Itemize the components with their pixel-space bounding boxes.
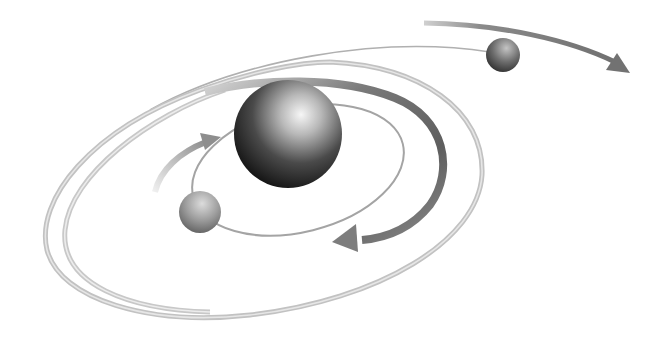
- diagram-svg: [0, 0, 660, 347]
- outer-satellite: [486, 38, 520, 72]
- central-sphere: [234, 80, 342, 188]
- orbital-diagram: [0, 0, 660, 347]
- far-right-arrow: [606, 53, 630, 73]
- inner-satellite: [179, 191, 221, 233]
- middle-counterclockwise-arrow: [332, 224, 358, 252]
